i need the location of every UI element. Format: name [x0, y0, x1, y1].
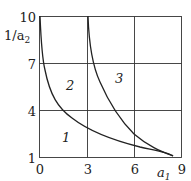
x-tick-9: 9 [178, 162, 186, 177]
x-tick-6: 6 [131, 162, 139, 177]
y-tick-1: 1 [28, 151, 36, 166]
curve-upper [88, 16, 173, 156]
x-axis-label: a1 [157, 165, 171, 181]
x-tick-0: 0 [36, 162, 44, 177]
region-3-label: 3 [115, 71, 123, 86]
grid [40, 17, 182, 158]
curve-lower [40, 16, 173, 156]
y-tick-7: 7 [28, 57, 36, 72]
chart: 10 7 4 1 0 3 6 9 1/a2 a1 1 2 3 [0, 0, 191, 181]
region-2-label: 2 [65, 78, 74, 93]
y-tick-4: 4 [28, 104, 36, 119]
y-tick-10: 10 [19, 10, 36, 25]
y-axis-label: 1/a2 [4, 28, 30, 45]
x-tick-3: 3 [84, 162, 92, 177]
region-1-label: 1 [62, 130, 70, 145]
